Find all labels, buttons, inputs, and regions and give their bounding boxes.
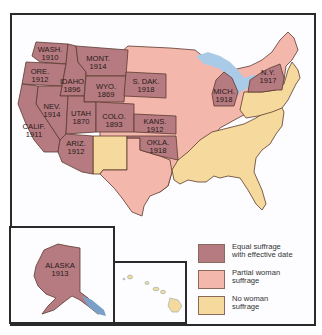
legend-swatch-partial: [198, 270, 225, 289]
legend: Equal suffrage with effective date Parti…: [198, 243, 310, 321]
label-ore-year: 1912: [32, 75, 49, 84]
label-alaska-year: 1913: [52, 269, 69, 278]
label-sdak-year: 1918: [138, 85, 155, 94]
label-kans-year: 1912: [147, 125, 164, 134]
legend-swatch-none: [198, 296, 225, 315]
label-nev-year: 1914: [44, 110, 61, 119]
legend-item-partial: Partial woman suffrage: [198, 269, 310, 295]
state-new-mexico: [93, 136, 127, 174]
legend-item-none: No woman suffrage: [198, 295, 310, 321]
label-utah-year: 1870: [73, 117, 90, 126]
label-mont-year: 1914: [90, 62, 107, 71]
label-idaho-year: 1896: [64, 85, 81, 94]
legend-swatch-equal: [198, 244, 225, 263]
legend-label-none-line2: suffrage: [232, 303, 268, 311]
label-calif-year: 1911: [26, 130, 42, 139]
label-mich-year: 1918: [216, 95, 233, 104]
hawaii-inset-box: [114, 262, 186, 323]
label-ny-year: 1917: [260, 76, 277, 85]
label-colo-year: 1893: [106, 120, 123, 129]
label-wash-year: 1910: [42, 53, 59, 62]
label-wyo-year: 1869: [98, 90, 115, 99]
legend-label-partial-line2: suffrage: [232, 277, 280, 285]
legend-label-equal-line2: with effective date: [232, 251, 293, 259]
label-ariz-year: 1912: [68, 147, 85, 156]
legend-item-equal: Equal suffrage with effective date: [198, 243, 310, 269]
label-okla-year: 1918: [150, 146, 167, 155]
